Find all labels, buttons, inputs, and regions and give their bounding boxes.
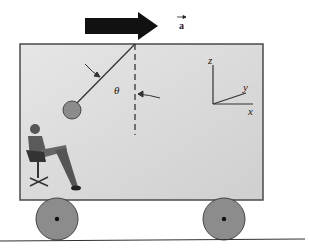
acceleration-arrow [85,12,158,40]
diagram-canvas [0,0,310,252]
axis-y-label: y [243,82,248,93]
front-wheel [203,198,245,240]
ground-line [0,239,305,241]
axis-x-label: x [248,106,253,117]
axis-z-label: z [208,55,212,66]
acceleration-label: a [179,21,184,31]
pendulum-bob [63,101,81,119]
rear-wheel [36,198,78,240]
angle-theta-label: θ [114,85,119,96]
truck-box [20,44,263,200]
vector-arrow-icon [177,16,186,19]
